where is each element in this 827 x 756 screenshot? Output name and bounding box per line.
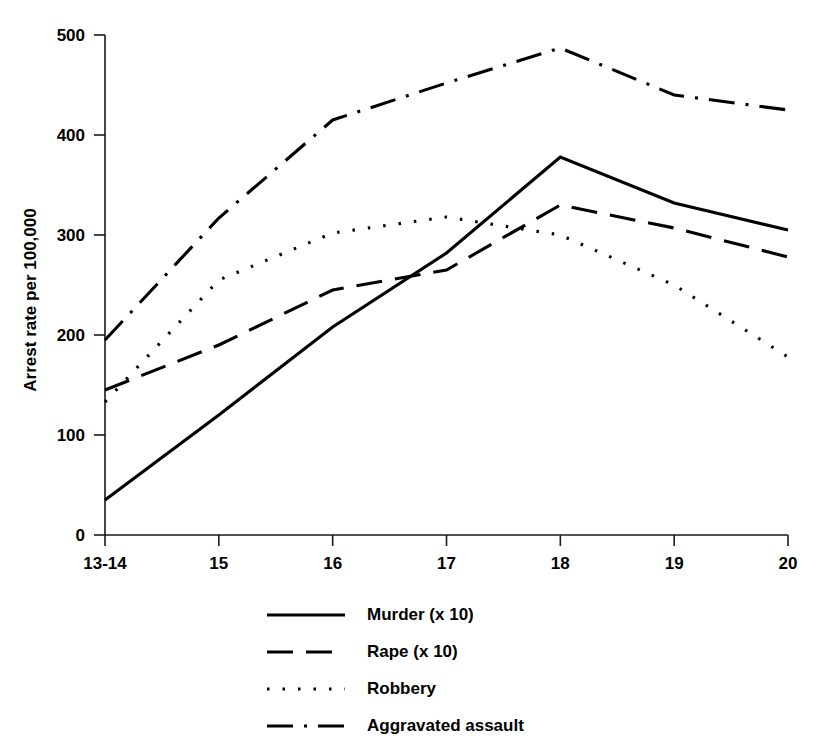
y-axis-title: Arrest rate per 100,000 (21, 208, 40, 391)
x-axis-tick-label: 18 (551, 554, 570, 573)
legend-label-murder-x-10: Murder (x 10) (367, 605, 474, 624)
legend-label-aggravated-assault: Aggravated assault (367, 716, 524, 735)
y-axis-tick-label: 400 (57, 126, 85, 145)
x-axis-tick-label: 16 (323, 554, 342, 573)
y-axis-tick-label: 200 (57, 326, 85, 345)
legend-label-rape-x-10: Rape (x 10) (367, 642, 458, 661)
chart-canvas: 0100200300400500 13-14151617181920 Murde… (0, 0, 827, 756)
x-axis-tick-label: 20 (779, 554, 798, 573)
series-line-aggravated-assault (105, 48, 788, 340)
series-line-robbery (105, 217, 788, 402)
series-line-rape-x-10 (105, 205, 788, 390)
y-axis-tick-label: 500 (57, 26, 85, 45)
x-axis-tick-label: 19 (665, 554, 684, 573)
chart-legend: Murder (x 10)Rape (x 10)RobberyAggravate… (267, 605, 524, 735)
y-axis-tick-label: 100 (57, 426, 85, 445)
x-axis-tick-label: 15 (209, 554, 228, 573)
y-axis-tick-label: 0 (76, 526, 85, 545)
series-line-murder-x-10 (105, 157, 788, 500)
series-lines (105, 48, 788, 500)
x-axis: 13-14151617181920 (83, 535, 797, 573)
y-axis-tick-label: 300 (57, 226, 85, 245)
legend-label-robbery: Robbery (367, 679, 437, 698)
x-axis-tick-label: 13-14 (83, 554, 127, 573)
arrest-rate-line-chart: 0100200300400500 13-14151617181920 Murde… (0, 0, 827, 756)
x-axis-tick-label: 17 (437, 554, 456, 573)
y-axis: 0100200300400500 (57, 26, 105, 545)
